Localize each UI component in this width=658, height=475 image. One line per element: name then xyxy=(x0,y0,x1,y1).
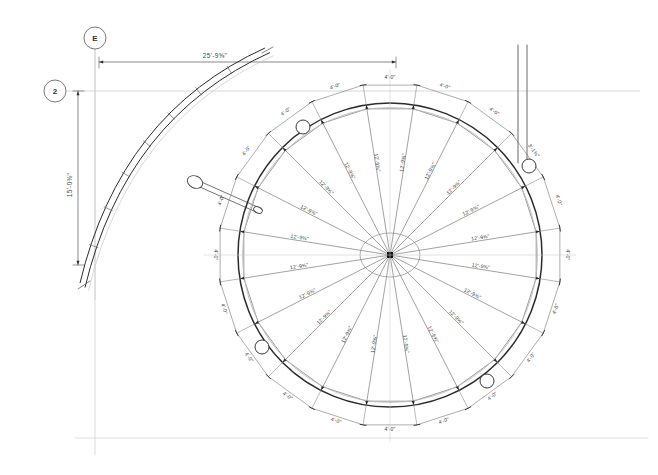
radial-canopy-plan-spoke-extension-9 xyxy=(459,390,468,408)
radial-canopy-plan-radius-label-16: 12'-9⅝" xyxy=(290,233,309,242)
radial-canopy-plan-chord-tick-17 xyxy=(235,174,238,179)
radial-canopy-plan-chord-label-13: 4'-0" xyxy=(244,351,255,363)
radial-canopy-plan-spoke-extension-15 xyxy=(220,279,240,282)
radial-canopy-plan-radius-label-12: 12'-9⅝" xyxy=(340,325,354,344)
radial-canopy-plan-spoke-extension-0 xyxy=(363,85,366,105)
curved-wall-ramp-end-cap-end xyxy=(262,47,273,53)
curved-wall-ramp-tick xyxy=(168,113,174,119)
radial-canopy-plan-radius-label-11: 12'-9⅝" xyxy=(369,334,378,353)
radial-canopy-plan-chord-tick-14 xyxy=(235,330,238,335)
radial-canopy-plan-chord-label-7: 4'-0" xyxy=(525,351,536,363)
radial-canopy-plan-spoke-5 xyxy=(390,231,540,255)
grid-bubble-e[interactable]: E xyxy=(84,27,106,49)
radial-canopy-plan-radius-label-1: 12'-9⅝" xyxy=(398,153,407,172)
radial-canopy-plan-spoke-extension-8 xyxy=(497,362,511,376)
radial-canopy-plan-spoke-extension-17 xyxy=(237,177,255,186)
radial-canopy-plan-radius-label-0: 12'-9⅝" xyxy=(373,153,382,172)
radial-canopy-plan-radius-label-2: 12'-9⅝" xyxy=(423,161,437,180)
radial-canopy-plan-chord-label-3: 3'-1⅜" xyxy=(527,142,541,158)
node-marker-upper-right xyxy=(522,159,536,173)
node-marker-upper-left xyxy=(296,120,310,134)
radial-canopy-plan-spoke-11 xyxy=(366,255,390,405)
radial-canopy-plan-spoke-extension-19 xyxy=(312,102,321,120)
curved-wall-ramp-tick xyxy=(227,66,232,74)
radial-canopy-plan-spoke-extension-16 xyxy=(220,228,240,231)
radial-canopy-plan-radius-label-15: 12'-9⅝" xyxy=(290,261,309,270)
radial-canopy-plan-radius-label-8: 12'-9⅝" xyxy=(448,308,465,325)
radial-canopy-plan-chord-tick-4 xyxy=(542,174,545,179)
radial-canopy-plan-spoke-9 xyxy=(390,255,459,390)
radial-canopy-plan-chord-label-18: 4'-0" xyxy=(279,105,291,116)
radial-canopy-plan-spoke-extension-11 xyxy=(363,405,366,425)
radial-canopy-plan-spoke-4 xyxy=(390,186,525,255)
drawing-canvas: E225'-9⅝"15'-0⅜"12'-9⅝"12'-9⅝"12'-9⅝"12'… xyxy=(0,0,658,475)
radial-canopy-plan-spoke-extension-3 xyxy=(497,133,511,147)
radial-canopy-plan-chord-tick-2 xyxy=(465,100,470,103)
drawing-sheet: E225'-9⅝"15'-0⅜"12'-9⅝"12'-9⅝"12'-9⅝"12'… xyxy=(0,0,658,475)
radial-canopy-plan-radius-label-9: 12'-9⅝" xyxy=(427,325,441,344)
overall-horizontal-dimension-label: 25'-9⅝" xyxy=(203,52,228,59)
curved-wall-ramp-tick xyxy=(143,141,150,147)
radial-canopy-plan-spoke-1 xyxy=(390,105,414,255)
grid-bubble-2-label: 2 xyxy=(53,87,58,96)
radial-canopy-plan-spoke-0 xyxy=(366,105,390,255)
connector-strut-end-node xyxy=(253,205,264,214)
radial-canopy-plan-spoke-extension-10 xyxy=(414,405,417,425)
grid-bubble-2[interactable]: 2 xyxy=(44,80,66,102)
node-marker-lower-left xyxy=(255,340,269,354)
overall-vertical-dimension-arrow-end xyxy=(77,261,80,265)
radial-canopy-plan-radius-label-6: 12'-9⅝" xyxy=(471,261,490,270)
curved-wall-ramp-inner-edge xyxy=(80,48,265,283)
radial-canopy-plan-spoke-17 xyxy=(255,186,390,255)
radial-canopy-plan-spoke-16 xyxy=(240,231,390,255)
radial-canopy-plan-chord-label-2: 4'-0" xyxy=(488,105,500,116)
curved-wall-ramp-tick xyxy=(196,88,202,95)
overall-vertical-dimension-label: 15'-0⅜" xyxy=(66,172,73,197)
radial-canopy-plan-spoke-15 xyxy=(240,255,390,279)
radial-canopy-plan-spoke-extension-6 xyxy=(540,279,560,282)
radial-canopy-plan-chord-label-12: 4'-0" xyxy=(282,390,294,401)
radial-canopy-plan-spoke-extension-5 xyxy=(540,228,560,231)
radial-canopy-plan-chord-label-1: 4'-0" xyxy=(439,81,451,90)
radial-canopy-plan-spoke-extension-18 xyxy=(268,133,282,147)
radial-canopy-plan-radius-label-18: 12'-9⅝" xyxy=(318,179,335,196)
radial-canopy-plan-spoke-extension-4 xyxy=(525,177,543,186)
radial-canopy-plan-radius-label-10: 12'-9⅝" xyxy=(402,334,411,353)
radial-canopy-plan-spoke-extension-12 xyxy=(312,390,321,408)
radial-canopy-plan-spoke-12 xyxy=(321,255,390,390)
node-marker-lower-right xyxy=(480,374,494,388)
radial-canopy-plan-radius-label-19: 12'-9⅝" xyxy=(343,161,357,180)
radial-canopy-plan-spoke-extension-2 xyxy=(459,102,468,120)
radial-canopy-plan-chord-tick-9 xyxy=(465,407,470,410)
radial-canopy-plan-radius-label-3: 12'-9⅝" xyxy=(445,179,462,196)
radial-canopy-plan-spoke-extension-14 xyxy=(237,324,255,333)
radial-canopy-plan-spoke-6 xyxy=(390,255,540,279)
grid-bubble-e-label: E xyxy=(92,34,98,43)
radial-canopy-plan-chord-tick-7 xyxy=(542,330,545,335)
curved-wall-ramp-tick xyxy=(122,172,130,177)
radial-canopy-plan-chord-tick-12 xyxy=(309,407,314,410)
radial-canopy-plan-spoke-extension-13 xyxy=(268,362,282,376)
radial-canopy-plan-chord-label-17: 4'-0" xyxy=(240,144,251,156)
overall-vertical-dimension-arrow-start xyxy=(77,91,80,95)
radial-canopy-plan-radius-label-5: 12'-9⅝" xyxy=(471,233,490,242)
radial-canopy-plan-spoke-10 xyxy=(390,255,414,405)
radial-canopy-plan-chord-label-4: 4'-0" xyxy=(555,194,564,206)
radial-canopy-plan-chord-label-16: 4'-0" xyxy=(216,194,225,206)
radial-canopy-plan-chord-tick-19 xyxy=(309,100,314,103)
radial-canopy-plan-spoke-extension-7 xyxy=(525,324,543,333)
overall-horizontal-dimension-arrow-start xyxy=(99,61,103,64)
radial-canopy-plan-chord-label-19: 4'-0" xyxy=(329,81,341,90)
overall-horizontal-dimension-arrow-end xyxy=(392,61,396,64)
radial-canopy-plan-radius-label-13: 12'-9⅝" xyxy=(315,308,332,325)
radial-canopy-plan-spoke-extension-1 xyxy=(414,85,417,105)
radial-canopy-plan-chord-label-8: 4'-0" xyxy=(486,390,498,401)
